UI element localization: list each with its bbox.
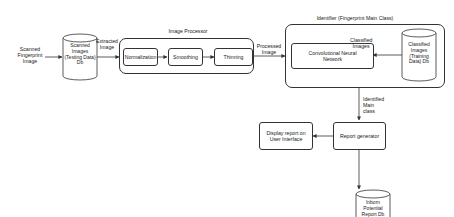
display-report: Display report on User Interface (259, 122, 313, 150)
report-db: Inborn Potential Report Db (358, 200, 388, 217)
classified-label: Classified Images (350, 37, 372, 49)
step-thinning: Thinning (214, 48, 253, 66)
extracted-label: Extracted Image (93, 38, 121, 50)
step-smoothing: Smoothing (168, 48, 203, 66)
input-label: Scanned Fingerprint Image (14, 46, 46, 64)
identified-label: Identified Main class (363, 96, 385, 114)
processed-label: Processed Image (254, 43, 284, 55)
identifier-title: Identifier (Fingerprint Main Class) (310, 15, 400, 21)
training-db: Classified Images (Training Data) Db (404, 42, 434, 65)
report-generator: Report generator (333, 122, 386, 150)
step-normalization: Normalization (123, 48, 158, 66)
scanned-db: Scanned Images (Testing Data) Db (64, 43, 96, 66)
image-processor-title: Image Processor (158, 28, 218, 34)
